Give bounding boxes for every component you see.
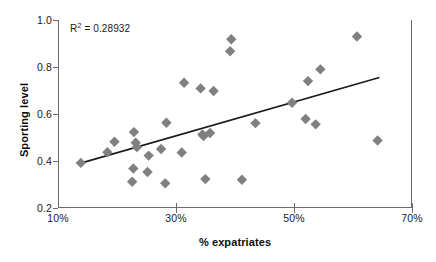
plot-canvas <box>59 20 413 208</box>
y-axis-title: Sporting level <box>18 60 30 180</box>
data-point-marker <box>160 178 170 188</box>
y-axis-tick-label: 0.4 <box>8 156 52 167</box>
x-axis-tick-mark <box>294 203 295 213</box>
x-axis-tick-mark <box>412 203 413 213</box>
data-point-marker <box>250 118 260 128</box>
x-axis-tick-label: 10% <box>28 213 88 224</box>
data-point-marker <box>303 76 313 86</box>
data-point-marker <box>179 78 189 88</box>
trendline <box>81 78 380 164</box>
data-point-marker <box>129 127 139 137</box>
trendline-segment <box>81 78 380 164</box>
x-axis-tick-label: 50% <box>264 213 324 224</box>
data-point-marker <box>226 34 236 44</box>
data-point-marker <box>76 158 86 168</box>
data-point-marker <box>156 144 166 154</box>
x-axis-tick-mark <box>176 203 177 213</box>
data-point-marker <box>143 150 153 160</box>
y-axis-tick-label: 0.2 <box>8 203 52 214</box>
data-point-marker <box>225 46 235 56</box>
r-squared-annotation: R2 = 0.28932 <box>70 24 130 34</box>
x-axis-tick-label: 70% <box>382 213 436 224</box>
data-point-marker <box>300 114 310 124</box>
data-point-marker <box>315 64 325 74</box>
x-axis-tick-label: 30% <box>146 213 206 224</box>
r-squared-value: = 0.28932 <box>82 23 131 34</box>
plot-area <box>58 20 412 208</box>
data-point-marker <box>109 137 119 147</box>
data-point-marker <box>161 117 171 127</box>
y-axis-tick-label: 0.6 <box>8 109 52 120</box>
data-point-marker <box>372 135 382 145</box>
x-axis-title: % expatriates <box>58 236 412 248</box>
data-points <box>76 31 383 188</box>
data-point-marker <box>287 98 297 108</box>
y-axis-tick-label: 1.0 <box>8 15 52 26</box>
data-point-marker <box>237 175 247 185</box>
data-point-marker <box>208 86 218 96</box>
data-point-marker <box>128 163 138 173</box>
y-axis-tick-label: 0.8 <box>8 62 52 73</box>
data-point-marker <box>177 147 187 157</box>
data-point-marker <box>310 119 320 129</box>
data-point-marker <box>195 83 205 93</box>
data-point-marker <box>352 31 362 41</box>
data-point-marker <box>142 167 152 177</box>
data-point-marker <box>200 174 210 184</box>
data-point-marker <box>127 176 137 186</box>
y-axis-tick-mark <box>53 208 58 209</box>
scatter-chart: 0.20.40.60.81.0 Sporting level R2 = 0.28… <box>0 0 436 262</box>
